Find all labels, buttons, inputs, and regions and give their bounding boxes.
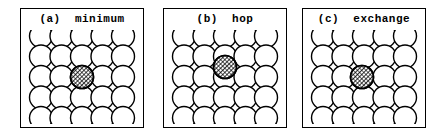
lattice-atom — [50, 45, 73, 68]
lattice-atom — [173, 45, 196, 68]
lattice-atom — [373, 86, 396, 109]
panel-b-lattice — [169, 30, 281, 124]
panel-c-lattice — [308, 30, 420, 124]
lattice-atom — [91, 66, 114, 89]
lattice-atom — [332, 86, 355, 109]
lattice-atom — [71, 45, 94, 68]
lattice-atom — [312, 66, 335, 89]
lattice-atom — [91, 86, 114, 109]
lattice-atom — [234, 66, 257, 89]
panel-b-lattice-svg — [169, 30, 281, 124]
lattice-atom — [312, 45, 335, 68]
lattice-atom — [30, 45, 53, 68]
diffusion-mechanisms-figure: (a) minimum (b) hop (c) exchange — [0, 0, 443, 140]
lattice-atom — [30, 86, 53, 109]
lattice-atom — [353, 107, 376, 125]
lattice-atom — [50, 66, 73, 89]
lattice-atom — [214, 86, 237, 109]
lattice-atom — [353, 45, 376, 68]
lattice-atom — [193, 107, 216, 125]
lattice-atom — [193, 86, 216, 109]
lattice-atom — [255, 45, 278, 68]
lattice-atom — [394, 107, 417, 125]
lattice-atom — [255, 107, 278, 125]
lattice-atom — [332, 45, 355, 68]
lattice-atom — [91, 45, 114, 68]
panel-c-exchange: (c) exchange — [302, 8, 426, 128]
panel-c-lattice-svg — [308, 30, 420, 124]
lattice-atom — [71, 86, 94, 109]
lattice-atom — [312, 107, 335, 125]
lattice-atom — [353, 86, 376, 109]
lattice-atom — [91, 107, 114, 125]
lattice-atom — [373, 45, 396, 68]
lattice-atom — [234, 107, 257, 125]
lattice-atom — [373, 66, 396, 89]
lattice-atom — [112, 45, 135, 68]
lattice-atom — [112, 66, 135, 89]
panel-a-title: (a) minimum — [21, 13, 143, 25]
lattice-atom — [112, 107, 135, 125]
panel-b-hop: (b) hop — [163, 8, 287, 128]
adatom-hatch-overlay — [214, 56, 237, 79]
lattice-atom — [214, 107, 237, 125]
lattice-atom — [234, 86, 257, 109]
lattice-atom — [394, 86, 417, 109]
lattice-atom — [234, 45, 257, 68]
adatom-hatch-overlay — [71, 66, 94, 89]
lattice-atom — [30, 66, 53, 89]
lattice-atom — [312, 86, 335, 109]
lattice-atom — [193, 66, 216, 89]
lattice-atom — [193, 45, 216, 68]
lattice-atom — [255, 66, 278, 89]
lattice-atom — [394, 66, 417, 89]
lattice-atom — [332, 107, 355, 125]
lattice-atom — [394, 45, 417, 68]
lattice-atom — [71, 107, 94, 125]
adatom-hatch-overlay — [351, 66, 374, 89]
lattice-atom — [50, 86, 73, 109]
panel-a-lattice — [26, 30, 138, 124]
lattice-atom — [50, 107, 73, 125]
panel-b-title: (b) hop — [164, 13, 286, 25]
lattice-atom — [30, 107, 53, 125]
lattice-atom — [112, 86, 135, 109]
panel-a-minimum: (a) minimum — [20, 8, 144, 128]
lattice-atom — [173, 107, 196, 125]
lattice-atom — [173, 86, 196, 109]
panel-a-lattice-svg — [26, 30, 138, 124]
lattice-atom — [255, 86, 278, 109]
panel-c-title: (c) exchange — [303, 13, 425, 25]
lattice-atom — [373, 107, 396, 125]
lattice-atom — [173, 66, 196, 89]
